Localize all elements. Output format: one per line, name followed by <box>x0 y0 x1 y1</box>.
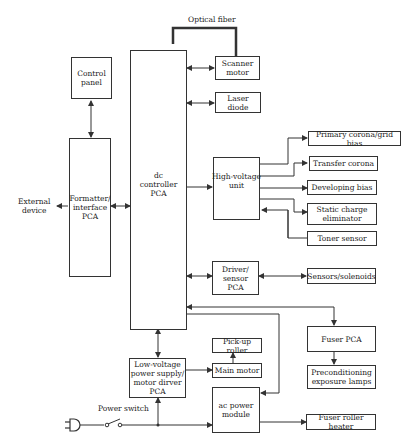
developing-bias-block: Developing bias <box>307 180 377 195</box>
external-device-label: External device <box>18 197 50 215</box>
pickup-roller-block: Pick-up roller <box>212 338 262 353</box>
optical-fiber-label: Optical fiber <box>188 15 236 24</box>
sensors-solenoids-block: Sensors/solenoids <box>307 268 376 284</box>
fuser-pca-block: Fuser PCA <box>307 326 376 352</box>
high-voltage-unit-block: High-voltage unit <box>213 157 260 220</box>
primary-corona-block: Primary corona/grid bias <box>308 131 401 146</box>
dc-controller-block: dc controller PCA <box>130 50 187 330</box>
transfer-corona-block: Transfer corona <box>309 156 378 171</box>
static-charge-eliminator-block: Static charge eliminator <box>307 203 377 225</box>
fuser-roller-heater-block: Fuser roller heater <box>306 414 376 430</box>
ac-power-module-block: ac power module <box>212 387 260 433</box>
driver-sensor-block: Driver/ sensor PCA <box>212 261 259 295</box>
scanner-motor-block: Scanner motor <box>215 56 260 80</box>
low-voltage-power-block: Low-voltage power supply/ motor dirver P… <box>129 358 186 398</box>
laser-diode-block: Laser diode <box>215 92 261 113</box>
control-panel-block: Control panel <box>71 57 112 99</box>
preconditioning-lamps-block: Preconditioning exposure lamps <box>307 365 376 389</box>
main-motor-block: Main motor <box>212 363 262 378</box>
power-switch-label: Power switch <box>98 404 149 413</box>
power-plug-icon <box>65 419 80 431</box>
toner-sensor-block: Toner sensor <box>307 231 377 246</box>
formatter-interface-block: Formatter/ interface PCA <box>69 138 111 277</box>
